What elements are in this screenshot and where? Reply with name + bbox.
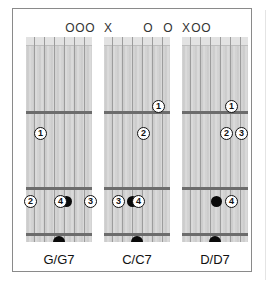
fretboard [104, 37, 170, 242]
finger-number-2: 2 [220, 127, 233, 140]
finger-number-3: 3 [112, 195, 125, 208]
chord-label: D/D7 [182, 252, 248, 267]
guitar-string [210, 37, 211, 242]
guitar-string [34, 37, 35, 242]
position-marker-dot [209, 236, 221, 242]
guitar-string [64, 37, 65, 242]
finger-number-2: 2 [137, 127, 150, 140]
guitar-string [122, 37, 123, 242]
fret-wire [26, 187, 92, 190]
guitar-string [84, 37, 85, 242]
finger-number-4: 4 [54, 195, 67, 208]
finger-number-1: 1 [225, 100, 238, 113]
fret-wire [104, 187, 170, 190]
guitar-string [230, 37, 231, 242]
finger-number-2: 2 [24, 195, 37, 208]
fret-wire [182, 187, 248, 190]
chord-chart-frame: OOO1243G/G7XOO1234C/C7XOO1234D/D7 [12, 8, 252, 272]
open-string-marker: O [200, 21, 212, 35]
fret-dot [211, 196, 222, 207]
muted-string-marker: X [102, 21, 114, 35]
chord-diagram-d-d7: XOO1234D/D7 [182, 9, 252, 271]
open-string-marker: O [84, 21, 96, 35]
chord-diagram-g-g7: OOO1243G/G7 [26, 9, 96, 271]
nut [182, 37, 248, 46]
string-markers: XOO [104, 21, 174, 35]
open-string-marker: O [162, 21, 174, 35]
finger-number-3: 3 [235, 127, 248, 140]
finger-number-1: 1 [34, 127, 47, 140]
guitar-string [54, 37, 55, 242]
page-edge-rule [265, 10, 266, 280]
finger-number-1: 1 [152, 100, 165, 113]
string-markers: OOO [26, 21, 96, 35]
position-marker-dot [53, 236, 65, 242]
fret-wire [182, 111, 248, 114]
guitar-string [220, 37, 221, 242]
fret-wire [26, 111, 92, 114]
guitar-string [162, 37, 163, 242]
finger-number-4: 4 [132, 195, 145, 208]
guitar-string [190, 37, 191, 242]
guitar-string [112, 37, 113, 242]
nut [26, 37, 92, 46]
nut [104, 37, 170, 46]
open-string-marker: O [142, 21, 154, 35]
finger-number-3: 3 [84, 195, 97, 208]
guitar-string [200, 37, 201, 242]
guitar-string [132, 37, 133, 242]
chord-diagram-c-c7: XOO1234C/C7 [104, 9, 174, 271]
position-marker-dot [131, 236, 143, 242]
chord-label: C/C7 [104, 252, 170, 267]
guitar-string [152, 37, 153, 242]
string-markers: XOO [182, 21, 252, 35]
finger-number-4: 4 [225, 195, 238, 208]
chord-label: G/G7 [26, 252, 92, 267]
fretboard [26, 37, 92, 242]
guitar-string [44, 37, 45, 242]
guitar-string [74, 37, 75, 242]
